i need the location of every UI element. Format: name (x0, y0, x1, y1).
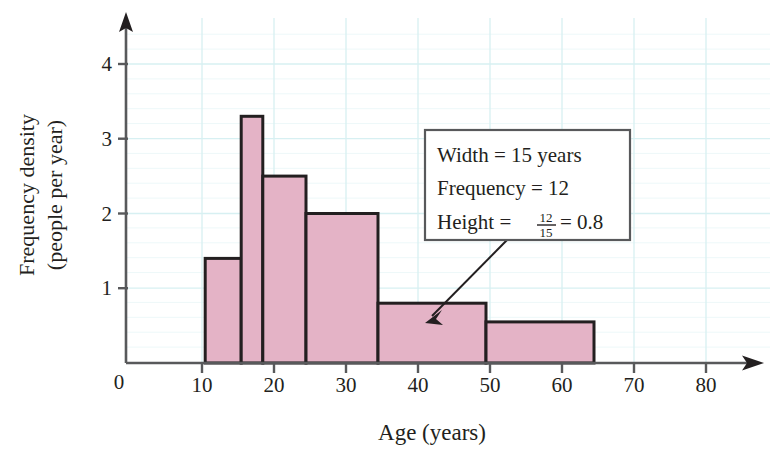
histogram-bar (486, 322, 594, 363)
y-tick-labels: 4 3 2 1 0 (102, 52, 125, 394)
x-tick-label: 60 (552, 373, 573, 397)
x-tick-label: 10 (192, 373, 213, 397)
y-tick-label: 4 (102, 52, 113, 76)
callout-height-suffix: = 0.8 (560, 210, 603, 234)
x-tick-label: 40 (408, 373, 429, 397)
x-tick-label: 50 (480, 373, 501, 397)
histogram-bar (263, 176, 306, 363)
y-tick-label: 3 (102, 127, 113, 151)
histogram-figure: 4 3 2 1 0 10 20 30 40 50 60 70 80 Age (y… (0, 0, 780, 467)
origin-label: 0 (114, 370, 125, 394)
callout-fraction-numerator: 12 (540, 210, 553, 225)
histogram-bar (205, 258, 241, 363)
callout-line-frequency: Frequency = 12 (437, 176, 569, 200)
histogram-bar (378, 303, 486, 363)
y-axis-title-line2: (people per year) (42, 120, 67, 270)
histogram-bar (306, 214, 378, 364)
callout-fraction-denominator: 15 (540, 225, 553, 240)
annotation-callout: Width = 15 years Frequency = 12 Height =… (425, 130, 630, 325)
x-tick-labels: 10 20 30 40 50 60 70 80 (192, 373, 717, 397)
y-tick-label: 2 (102, 202, 113, 226)
y-axis-title-line1: Frequency density (14, 114, 39, 276)
chart-canvas: 4 3 2 1 0 10 20 30 40 50 60 70 80 Age (y… (0, 0, 780, 467)
x-tick-label: 20 (264, 373, 285, 397)
callout-line-width: Width = 15 years (437, 143, 582, 167)
y-tick-label: 1 (102, 276, 113, 300)
histogram-bar (241, 116, 263, 363)
x-tick-label: 70 (624, 373, 645, 397)
x-tick-label: 80 (696, 373, 717, 397)
x-axis-title: Age (years) (378, 420, 486, 445)
x-tick-label: 30 (336, 373, 357, 397)
callout-height-prefix: Height = (437, 210, 511, 234)
